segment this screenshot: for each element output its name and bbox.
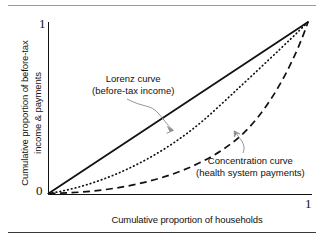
y-axis-title: Cumulative proportion of before-tax inco…	[18, 18, 44, 208]
lorenz-curve-annotation: Lorenz curve (before-tax income)	[92, 73, 174, 96]
figure-container: 1 0 1 Cumulative proportion of household…	[0, 0, 324, 240]
concentration-annotation-line-2: (health system payments)	[196, 167, 305, 179]
y-axis-title-line-2: income & payments	[31, 18, 44, 208]
lorenz-annotation-line-2: (before-tax income)	[92, 85, 174, 97]
concentration-curve-annotation: Concentration curve (health system payme…	[196, 155, 305, 178]
concentration-annotation-line-1: Concentration curve	[196, 155, 305, 167]
x-axis-tick-label-1: 1	[305, 196, 312, 212]
lorenz-annotation-line-1: Lorenz curve	[92, 73, 174, 85]
concentration-leader-arrowhead	[234, 131, 240, 137]
x-axis-title: Cumulative proportion of households	[62, 214, 312, 225]
chart-plot-area	[0, 0, 324, 240]
y-axis-title-line-1: Cumulative proportion of before-tax	[18, 18, 31, 208]
